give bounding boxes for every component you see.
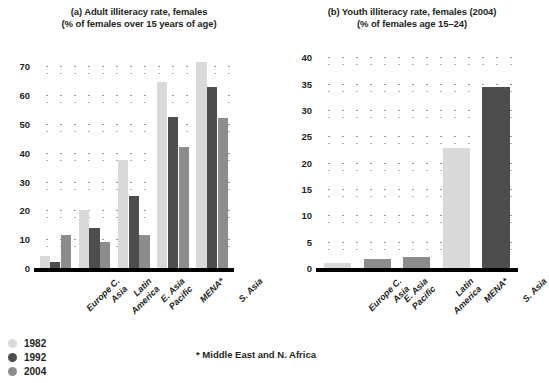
legend-swatch (8, 353, 17, 362)
panel-a-plot-area: 010203040506070 Europe C.AsiaLatinAmeric… (0, 0, 278, 383)
bar (129, 196, 139, 268)
panel-a-bars (36, 52, 232, 268)
bar (61, 235, 71, 268)
legend-swatch (8, 367, 17, 376)
y-tick-label: 50 (2, 119, 30, 130)
legend-item: 1982 (8, 336, 46, 350)
y-tick-label: 70 (2, 61, 30, 72)
bar (218, 118, 228, 268)
x-tick-label-line: MENA* (481, 276, 510, 305)
bar (403, 257, 430, 268)
chart-legend: 198219922004 (8, 336, 46, 378)
chart-panel-youth-illiteracy: (b) Youth illiteracy rate, females (2004… (278, 0, 546, 383)
bar (196, 62, 206, 268)
y-tick-label: 25 (284, 131, 312, 142)
legend-label: 2004 (24, 366, 46, 377)
bar (89, 228, 99, 268)
y-tick-label: 0 (284, 263, 312, 274)
panel-b-baseline (316, 268, 518, 272)
bar (157, 82, 167, 268)
y-tick-label: 20 (284, 157, 312, 168)
y-tick-label: 60 (2, 90, 30, 101)
x-tick-label-line: S. Asia (237, 276, 265, 304)
y-tick-label: 15 (284, 183, 312, 194)
y-tick-label: 30 (284, 104, 312, 115)
bar (100, 242, 110, 268)
y-tick-label: 40 (284, 52, 312, 63)
legend-label: 1992 (24, 352, 46, 363)
y-tick-label: 10 (284, 210, 312, 221)
bar (443, 148, 470, 268)
panel-a-baseline (34, 268, 234, 272)
x-tick-label: MENA* (198, 276, 227, 305)
x-tick-label: LatinAmerica (121, 276, 161, 316)
legend-item: 2004 (8, 364, 46, 378)
x-tick-label-line: S. Asia (521, 276, 549, 304)
bar (79, 210, 89, 268)
legend-label: 1982 (24, 338, 46, 349)
bar (139, 235, 149, 268)
bar (118, 160, 128, 268)
bar (207, 87, 217, 268)
y-tick-label: 30 (2, 176, 30, 187)
x-tick-label: S. Asia (237, 276, 265, 304)
bar (482, 87, 509, 268)
y-tick-label: 5 (284, 236, 312, 247)
panel-b-bars (318, 52, 516, 268)
bar (168, 117, 178, 268)
x-tick-label: LatinAmerica (443, 276, 483, 316)
legend-swatch (8, 339, 17, 348)
x-tick-label: MENA* (481, 276, 510, 305)
y-tick-label: 40 (2, 147, 30, 158)
x-tick-label-line: MENA* (198, 276, 227, 305)
y-tick-label: 0 (2, 263, 30, 274)
y-tick-label: 20 (2, 205, 30, 216)
bar (179, 147, 189, 268)
bar (40, 256, 50, 268)
legend-item: 1992 (8, 350, 46, 364)
y-tick-label: 10 (2, 234, 30, 245)
chart-panel-adult-illiteracy: (a) Adult illiteracy rate, females (% of… (0, 0, 278, 383)
x-tick-label: S. Asia (521, 276, 549, 304)
y-tick-label: 35 (284, 78, 312, 89)
bar (364, 259, 391, 268)
footnote: * Middle East and N. Africa (196, 349, 316, 360)
x-tick-label: E. AsiaPacific (159, 276, 195, 312)
panel-b-plot-area: 0510152025303540 Europe C.AsiaE. AsiaPac… (278, 0, 546, 383)
x-tick-label: E. AsiaPacific (402, 276, 438, 312)
